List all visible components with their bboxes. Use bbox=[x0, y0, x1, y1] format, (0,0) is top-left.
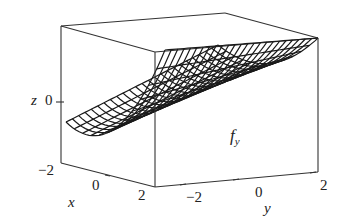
z-axis-label: z bbox=[31, 93, 37, 108]
plot-box-back bbox=[61, 13, 318, 52]
z-tick-0: 0 bbox=[45, 93, 53, 108]
y-tick-2: 2 bbox=[320, 178, 328, 193]
x-tick-minus-2: −2 bbox=[38, 163, 54, 178]
x-tick-0: 0 bbox=[92, 178, 100, 193]
surface-mesh bbox=[66, 38, 318, 136]
y-tick-0: 0 bbox=[255, 185, 263, 200]
x-tick-2: 2 bbox=[138, 188, 146, 203]
function-label: fy bbox=[230, 127, 240, 147]
surface-plot bbox=[0, 0, 338, 222]
function-label-sub: y bbox=[235, 135, 240, 147]
y-tick-minus-2: −2 bbox=[186, 190, 202, 205]
x-axis-label: x bbox=[68, 195, 75, 210]
y-axis-label: y bbox=[264, 201, 271, 216]
